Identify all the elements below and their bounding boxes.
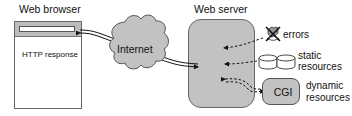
errors-icon	[266, 27, 280, 41]
errors-label: errors	[283, 29, 309, 40]
dynamic-label-2: resources	[306, 92, 350, 103]
static-link	[225, 61, 257, 64]
dynamic-label: dynamic	[306, 80, 343, 91]
static-label-2: resources	[298, 61, 342, 72]
cgi-label: CGI	[274, 86, 293, 98]
cgi-node: CGI	[262, 78, 300, 105]
static-resources-disks-icon	[259, 55, 295, 69]
dynamic-link	[225, 79, 264, 92]
errors-link	[224, 38, 263, 48]
internet-cloud-icon	[110, 15, 169, 69]
static-label: static	[298, 50, 321, 61]
internet-label: Internet	[117, 43, 153, 55]
